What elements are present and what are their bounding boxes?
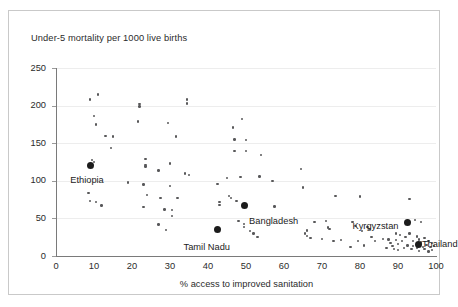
scatter-point xyxy=(241,118,243,120)
highlight-point-bangladesh xyxy=(241,202,248,209)
scatter-point xyxy=(157,169,159,171)
scatter-point xyxy=(427,250,429,252)
scatter-point xyxy=(93,115,95,117)
scatter-point xyxy=(226,177,228,179)
scatter-point xyxy=(321,238,323,240)
scatter-point xyxy=(340,239,342,241)
y-tick-mark xyxy=(52,256,56,257)
point-label-bangladesh: Bangladesh xyxy=(249,216,298,226)
y-tick-mark xyxy=(52,218,56,219)
scatter-point xyxy=(159,197,161,199)
scatter-point xyxy=(399,234,401,236)
scatter-point xyxy=(146,194,148,196)
scatter-point xyxy=(169,185,171,187)
y-tick-label: 50 xyxy=(18,213,46,223)
y-tick-label: 250 xyxy=(18,63,46,73)
x-tick-label: 100 xyxy=(424,261,448,271)
y-tick-mark xyxy=(52,106,56,107)
scatter-point xyxy=(167,122,169,124)
highlight-point-tamil-nadu xyxy=(214,226,221,233)
scatter-point xyxy=(138,105,140,107)
scatter-point xyxy=(387,238,389,240)
scatter-point xyxy=(218,204,220,206)
scatter-point xyxy=(249,230,251,232)
scatter-point xyxy=(112,135,114,137)
y-tick-label: 0 xyxy=(18,251,46,261)
scatter-point xyxy=(245,139,247,141)
x-tick-label: 90 xyxy=(386,261,410,271)
scatter-point xyxy=(334,195,336,197)
scatter-point xyxy=(216,183,218,185)
point-label-tamil-nadu: Tamil Nadu xyxy=(184,242,231,252)
scatter-point xyxy=(243,223,245,225)
scatter-point xyxy=(95,201,97,203)
scatter-point xyxy=(412,245,414,247)
scatter-point xyxy=(395,239,397,241)
scatter-point xyxy=(302,186,304,188)
scatter-point xyxy=(403,247,405,249)
scatter-point xyxy=(397,249,399,251)
scatter-point xyxy=(370,236,372,238)
scatter-point xyxy=(328,228,330,230)
scatter-point xyxy=(104,135,106,137)
y-tick-label: 150 xyxy=(18,138,46,148)
scatter-point xyxy=(313,221,315,223)
scatter-point xyxy=(144,165,146,167)
scatter-point xyxy=(233,138,235,140)
plot-area: EthiopiaTamil NaduBangladeshKyrgyzstanTh… xyxy=(56,68,436,256)
x-tick-label: 80 xyxy=(348,261,372,271)
gridline xyxy=(56,181,436,182)
y-axis-line xyxy=(56,68,57,256)
scatter-point xyxy=(414,219,416,221)
scatter-point xyxy=(169,162,171,164)
y-tick-mark xyxy=(52,181,56,182)
x-tick-label: 50 xyxy=(234,261,258,271)
x-tick-label: 70 xyxy=(310,261,334,271)
scatter-point xyxy=(235,200,237,202)
scatter-point xyxy=(382,238,384,240)
scatter-point xyxy=(239,176,241,178)
scatter-point xyxy=(142,206,144,208)
scatter-point xyxy=(171,215,173,217)
scatter-point xyxy=(97,93,99,95)
scatter-point xyxy=(412,240,414,242)
scatter-point xyxy=(325,220,327,222)
scatter-point xyxy=(357,240,359,242)
scatter-point xyxy=(95,123,97,125)
scatter-point xyxy=(359,195,361,197)
gridline xyxy=(56,218,436,219)
scatter-point xyxy=(163,208,165,210)
y-tick-mark xyxy=(52,143,56,144)
scatter-point xyxy=(176,197,178,199)
x-tick-label: 30 xyxy=(158,261,182,271)
x-axis-line xyxy=(56,256,437,257)
scatter-point xyxy=(385,247,387,249)
scatter-point xyxy=(252,232,254,234)
scatter-point xyxy=(363,244,365,246)
scatter-point xyxy=(230,197,232,199)
scatter-point xyxy=(410,248,412,250)
scatter-point xyxy=(306,235,308,237)
scatter-point xyxy=(186,98,188,100)
scatter-point xyxy=(165,229,167,231)
scatter-point xyxy=(418,250,420,252)
point-label-ethiopia: Ethiopia xyxy=(70,175,104,185)
y-tick-mark xyxy=(52,68,56,69)
scatter-point xyxy=(233,150,235,152)
scatter-point xyxy=(349,246,351,248)
scatter-point xyxy=(306,229,308,231)
scatter-point xyxy=(256,236,258,238)
scatter-point xyxy=(243,226,245,228)
point-label-kyrgyzstan: Kyrgyzstan xyxy=(353,221,399,231)
scatter-point xyxy=(137,120,139,122)
gridline xyxy=(56,68,436,69)
scatter-point xyxy=(110,147,112,149)
scatter-point xyxy=(175,135,177,137)
scatter-point xyxy=(300,168,302,170)
scatter-point xyxy=(404,236,406,238)
scatter-point xyxy=(406,244,408,246)
scatter-point xyxy=(374,240,376,242)
x-tick-label: 20 xyxy=(120,261,144,271)
scatter-point xyxy=(218,201,220,203)
scatter-point xyxy=(188,174,190,176)
